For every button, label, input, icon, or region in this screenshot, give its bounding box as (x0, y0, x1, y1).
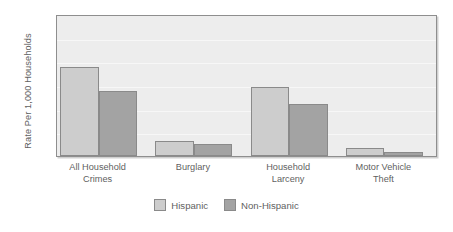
legend-item-hispanic[interactable]: Hispanic (154, 199, 208, 211)
legend-swatch-icon (154, 199, 166, 211)
gridline-200 (57, 63, 436, 64)
legend-item-non-hispanic[interactable]: Non-Hispanic (224, 199, 299, 211)
bar-hispanic-group-1 (60, 67, 99, 156)
bar-hispanic-group-2 (155, 141, 194, 156)
y-axis-title: Rate Per 1,000 Households (23, 11, 33, 171)
bar-non-hispanic-group-3 (289, 104, 328, 156)
x-label-line: Theft (323, 174, 443, 186)
bar-chart-figure: Rate Per 1,000 Households 05010015020025… (0, 0, 453, 232)
plot-inner (57, 16, 436, 156)
plot-area (56, 15, 437, 157)
bar-hispanic-group-4 (346, 148, 385, 156)
bar-non-hispanic-group-4 (384, 152, 423, 156)
chart-legend: HispanicNon-Hispanic (0, 199, 453, 211)
gridline-150 (57, 87, 436, 88)
legend-label: Hispanic (171, 200, 208, 211)
legend-label: Non-Hispanic (241, 200, 299, 211)
bar-non-hispanic-group-2 (194, 144, 233, 156)
x-label-group-4: Motor VehicleTheft (323, 162, 443, 185)
legend-swatch-icon (224, 199, 236, 211)
x-label-line: Crimes (38, 174, 158, 186)
bar-non-hispanic-group-1 (99, 91, 138, 156)
gridline-250 (57, 40, 436, 41)
x-label-line: Motor Vehicle (323, 162, 443, 174)
bar-hispanic-group-3 (251, 87, 290, 156)
